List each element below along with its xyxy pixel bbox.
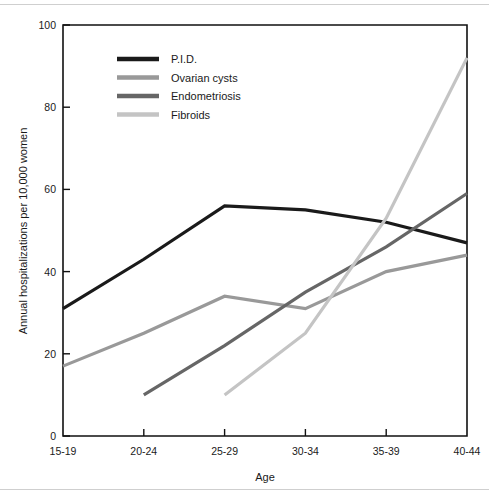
series-line bbox=[225, 58, 467, 395]
x-tick-label: 30-34 bbox=[292, 445, 319, 457]
y-tick-label: 80 bbox=[44, 101, 56, 113]
legend-label: P.I.D. bbox=[171, 53, 197, 65]
x-axis-ticks bbox=[144, 429, 386, 436]
x-tick-label: 20-24 bbox=[130, 445, 157, 457]
y-axis-ticks bbox=[63, 25, 70, 436]
x-tick-label: 35-39 bbox=[373, 445, 400, 457]
y-tick-label: 60 bbox=[44, 183, 56, 195]
x-tick-label: 25-29 bbox=[211, 445, 238, 457]
chart-figure: 020406080100 15-1920-2425-2930-3435-3940… bbox=[0, 0, 489, 498]
x-axis-tick-labels: 15-1920-2425-2930-3435-3940-44 bbox=[50, 445, 481, 457]
x-tick-label: 40-44 bbox=[454, 445, 481, 457]
legend-label: Ovarian cysts bbox=[171, 72, 238, 84]
y-tick-label: 0 bbox=[50, 430, 56, 442]
series-line bbox=[63, 206, 467, 309]
line-chart-canvas: 020406080100 15-1920-2425-2930-3435-3940… bbox=[0, 0, 489, 498]
y-tick-label: 40 bbox=[44, 266, 56, 278]
x-axis-title: Age bbox=[255, 471, 275, 483]
legend-label: Fibroids bbox=[171, 109, 211, 121]
plot-frame bbox=[63, 25, 467, 436]
x-tick-label: 15-19 bbox=[50, 445, 77, 457]
legend-label: Endometriosis bbox=[171, 90, 241, 102]
data-series-group bbox=[63, 58, 467, 395]
y-axis-tick-labels: 020406080100 bbox=[38, 19, 56, 442]
chart-legend: P.I.D.Ovarian cystsEndometriosisFibroids bbox=[117, 53, 241, 121]
y-axis-title: Annual hospitalizations per 10,000 women bbox=[17, 128, 29, 335]
series-line bbox=[144, 194, 467, 395]
y-tick-label: 20 bbox=[44, 348, 56, 360]
y-tick-label: 100 bbox=[38, 19, 56, 31]
